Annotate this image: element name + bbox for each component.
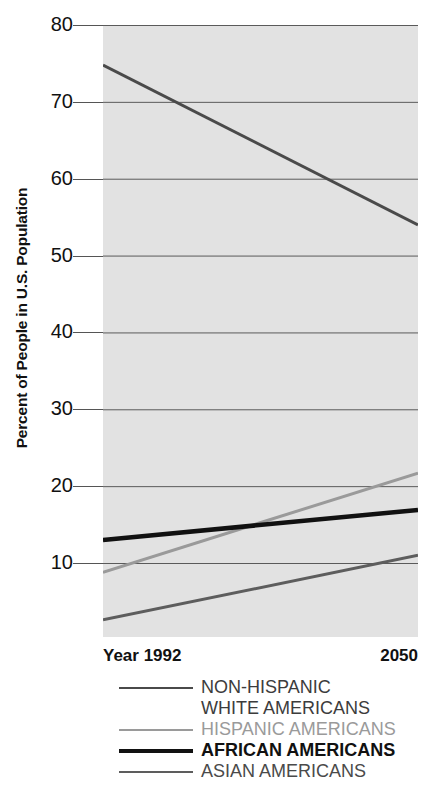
legend-label: NON-HISPANIC xyxy=(201,677,331,698)
y-axis-tick-label: 40 xyxy=(25,321,73,341)
legend-label: WHITE AMERICANS xyxy=(201,698,370,719)
legend-item: HISPANIC AMERICANS xyxy=(119,720,431,741)
y-axis-tick-label: 80 xyxy=(25,14,73,34)
legend-label: ASIAN AMERICANS xyxy=(201,761,366,782)
series-line xyxy=(103,510,418,540)
y-axis-tick-label: 50 xyxy=(25,245,73,265)
y-axis-tick-label: 20 xyxy=(25,475,73,495)
legend-line-swatch xyxy=(119,729,193,731)
series-line xyxy=(103,65,418,225)
legend-label: HISPANIC AMERICANS xyxy=(201,719,396,740)
x-axis-end-label: 2050 xyxy=(380,646,418,666)
y-axis-tick-label: 10 xyxy=(25,552,73,572)
y-axis-tick-mark xyxy=(73,409,103,410)
legend-line-swatch xyxy=(119,687,193,689)
x-axis-start-label: Year 1992 xyxy=(103,646,181,666)
series-line xyxy=(103,473,418,572)
y-axis-tick-mark xyxy=(73,332,103,333)
legend-line-swatch xyxy=(119,749,193,753)
legend-label: AFRICAN AMERICANS xyxy=(201,740,395,761)
line-chart-figure: Percent of People in U.S. Population 807… xyxy=(0,0,431,805)
plot-area xyxy=(103,25,418,637)
y-axis-tick-label: 70 xyxy=(25,91,73,111)
y-axis-tick-mark xyxy=(73,102,103,103)
y-axis-tick-mark xyxy=(73,486,103,487)
series-lines xyxy=(103,25,418,637)
y-axis-tick-mark xyxy=(73,179,103,180)
y-axis-tick-mark xyxy=(73,256,103,257)
legend-line-swatch xyxy=(119,771,193,773)
legend-item: NON-HISPANIC xyxy=(119,678,431,699)
y-axis-tick-label: 60 xyxy=(25,168,73,188)
y-axis-tick-label: 30 xyxy=(25,398,73,418)
legend: NON-HISPANICWHITE AMERICANSHISPANIC AMER… xyxy=(119,678,431,783)
x-axis: Year 1992 2050 xyxy=(103,646,418,670)
legend-item: WHITE AMERICANS xyxy=(119,699,431,720)
y-axis-tick-mark xyxy=(73,563,103,564)
series-line xyxy=(103,555,418,620)
y-axis-tick-mark xyxy=(73,25,103,26)
legend-item: ASIAN AMERICANS xyxy=(119,762,431,783)
legend-item: AFRICAN AMERICANS xyxy=(119,741,431,762)
